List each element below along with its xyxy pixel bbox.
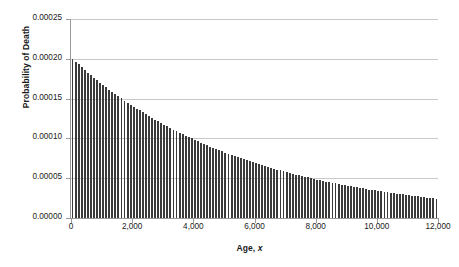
bar xyxy=(130,105,132,218)
bar xyxy=(353,187,355,218)
bar xyxy=(286,172,288,218)
bar xyxy=(209,147,211,218)
bar xyxy=(243,159,245,218)
bar xyxy=(417,196,419,218)
bar xyxy=(390,193,392,218)
x-axis-tick-mark xyxy=(438,219,439,223)
bar xyxy=(121,98,123,218)
x-axis-title: Age, x xyxy=(60,243,439,253)
bar xyxy=(160,123,162,218)
x-axis-tick-label: 6,000 xyxy=(225,222,285,231)
bar xyxy=(436,199,438,219)
bar xyxy=(393,193,395,218)
bar xyxy=(301,176,303,218)
bar xyxy=(111,92,113,218)
bar xyxy=(179,133,181,218)
bar xyxy=(139,110,141,218)
bar xyxy=(387,192,389,218)
bar xyxy=(304,177,306,218)
bar xyxy=(185,136,187,218)
bar xyxy=(84,70,86,218)
x-axis-tick-label: 8,000 xyxy=(286,222,346,231)
bar xyxy=(127,103,129,218)
bar xyxy=(298,175,300,218)
bar xyxy=(157,121,159,218)
bar xyxy=(411,196,413,218)
bar xyxy=(203,144,205,218)
bar xyxy=(90,75,92,218)
bar xyxy=(335,183,337,218)
bar xyxy=(252,162,254,218)
bar xyxy=(255,163,257,218)
bar xyxy=(182,134,184,218)
x-axis-tick-mark xyxy=(255,219,256,223)
bar xyxy=(295,175,297,218)
bar xyxy=(176,131,178,218)
bar xyxy=(328,182,330,218)
bar xyxy=(188,137,190,218)
bar xyxy=(313,179,315,218)
bar xyxy=(261,165,263,218)
bar xyxy=(322,181,324,218)
bar xyxy=(344,185,346,218)
bar xyxy=(368,190,370,218)
bar xyxy=(371,190,373,218)
x-axis-tick-mark xyxy=(377,219,378,223)
bar xyxy=(249,161,251,218)
bar xyxy=(338,184,340,218)
bar xyxy=(350,186,352,218)
x-axis-tick-label: 0 xyxy=(41,222,101,231)
bar xyxy=(319,180,321,218)
bar xyxy=(75,62,77,218)
bar xyxy=(218,150,220,218)
bar xyxy=(163,125,165,218)
bar xyxy=(234,156,236,218)
bar xyxy=(136,109,138,218)
bar xyxy=(206,145,208,218)
bar xyxy=(429,198,431,218)
bar-series xyxy=(71,19,438,218)
bar xyxy=(396,194,398,218)
bar xyxy=(200,143,202,218)
bar xyxy=(426,198,428,218)
bar xyxy=(237,157,239,218)
bar xyxy=(93,78,95,218)
x-axis-title-text: Age, xyxy=(236,243,255,253)
x-axis-tick-label: 2,000 xyxy=(102,222,162,231)
bar xyxy=(432,198,434,218)
bar xyxy=(270,168,272,218)
bar xyxy=(231,155,233,218)
bar xyxy=(142,112,144,218)
bar xyxy=(356,187,358,218)
bar xyxy=(316,180,318,218)
bar xyxy=(215,149,217,218)
bar xyxy=(374,190,376,218)
bar xyxy=(102,85,104,218)
bar xyxy=(145,114,147,218)
bar xyxy=(283,171,285,218)
bar xyxy=(267,167,269,218)
bar xyxy=(276,170,278,218)
bar xyxy=(105,87,107,218)
bar xyxy=(133,107,135,218)
bar xyxy=(365,189,367,218)
bar xyxy=(148,116,150,218)
bar xyxy=(240,158,242,218)
bar xyxy=(221,151,223,218)
bar xyxy=(228,154,230,218)
bar xyxy=(114,94,116,218)
bar xyxy=(332,183,334,218)
bar xyxy=(99,83,101,218)
bar xyxy=(154,120,156,218)
bar xyxy=(72,59,74,218)
bar xyxy=(96,80,98,218)
bar xyxy=(124,101,126,218)
plot-area xyxy=(71,19,438,218)
bar xyxy=(399,194,401,218)
x-axis-tick-label: 12,000 xyxy=(408,222,459,231)
bar xyxy=(423,197,425,218)
bar xyxy=(359,188,361,218)
bar xyxy=(414,196,416,218)
x-axis-title-variable: x xyxy=(258,243,263,253)
bar xyxy=(87,73,89,219)
